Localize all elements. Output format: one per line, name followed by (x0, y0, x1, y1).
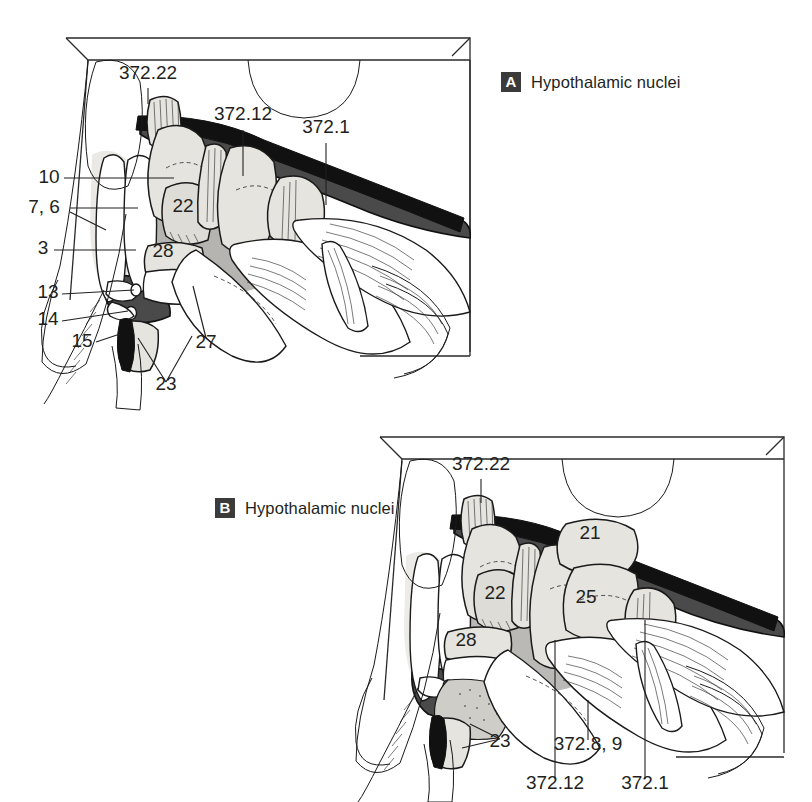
label-372-1-b: 372.1 (621, 772, 669, 793)
label-21-b: 21 (579, 522, 600, 543)
figure-page: 372.22 372.12 372.1 10 7, 6 3 13 14 15 2… (0, 0, 812, 802)
label-372-22-b: 372.22 (452, 453, 510, 474)
b-left-sweep-inner (358, 688, 418, 802)
label-25-b: 25 (575, 586, 596, 607)
label-13-a: 13 (37, 281, 58, 302)
label-372-12-a: 372.12 (214, 103, 272, 124)
label-22-a: 22 (172, 195, 193, 216)
label-3-a: 3 (38, 237, 49, 258)
label-22-b: 22 (484, 582, 505, 603)
a-dark-sliver (117, 318, 134, 372)
label-14-a: 14 (37, 308, 59, 329)
a-nucleus-372-12 (218, 146, 277, 254)
label-27-a: 27 (195, 331, 216, 352)
label-372-12-b: 372.12 (526, 772, 584, 793)
atlas-figure: 372.22 372.12 372.1 10 7, 6 3 13 14 15 2… (0, 0, 812, 802)
label-372-1-a: 372.1 (302, 116, 350, 137)
panel-b-title: Hypothalamic nuclei (245, 499, 395, 517)
panel-a-tag-letter: A (506, 73, 517, 90)
b-dark-sliver (429, 715, 446, 769)
label-23-a: 23 (155, 373, 176, 394)
panel-a-title: Hypothalamic nuclei (531, 73, 681, 91)
label-10-a: 10 (38, 166, 59, 187)
label-372-22-a: 372.22 (119, 62, 177, 83)
label-7-6-a: 7, 6 (28, 196, 60, 217)
label-23-b: 23 (489, 730, 510, 751)
label-372-8-9-b: 372.8, 9 (554, 733, 623, 754)
label-28-b: 28 (455, 629, 476, 650)
b-upper-arc (562, 459, 674, 517)
label-15-a: 15 (71, 330, 92, 351)
panel-b: 372.22 21 22 25 28 23 372.8, 9 372.12 37… (215, 437, 784, 802)
panel-b-tag-letter: B (220, 499, 231, 516)
b-left-sweep-hatch (384, 698, 414, 770)
label-28-a: 28 (152, 240, 173, 261)
panel-a: 372.22 372.12 372.1 10 7, 6 3 13 14 15 2… (28, 38, 680, 410)
a-column-1 (96, 155, 127, 302)
